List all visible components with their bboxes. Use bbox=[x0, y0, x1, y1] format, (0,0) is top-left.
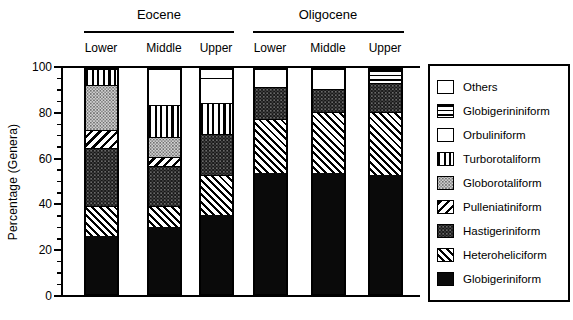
y-major-tick bbox=[54, 249, 62, 251]
segment-globigeriniform bbox=[255, 173, 286, 295]
column-label: Lower bbox=[71, 41, 131, 55]
bar-eocene-lower bbox=[84, 67, 119, 296]
y-tick-label: 40 bbox=[24, 197, 52, 211]
segment-heteroheliciform bbox=[255, 119, 286, 173]
segment-others bbox=[313, 69, 344, 89]
legend: OthersGlobigerininiformOrbuliniformTurbo… bbox=[428, 64, 570, 302]
segment-globigeriniform bbox=[149, 227, 180, 295]
segment-turborotaliform bbox=[86, 69, 117, 85]
bar-oligocene-middle bbox=[311, 67, 346, 296]
legend-item-globigerininiform: Globigerininiform bbox=[437, 104, 568, 118]
column-label: Middle bbox=[134, 41, 194, 55]
y-major-tick bbox=[54, 203, 62, 205]
y-axis-title: Percentage (Genera) bbox=[6, 62, 22, 302]
segment-heteroheliciform bbox=[86, 206, 117, 235]
y-minor-tick bbox=[57, 89, 62, 91]
segment-others bbox=[201, 69, 232, 78]
y-minor-tick bbox=[57, 284, 62, 286]
y-minor-tick bbox=[57, 215, 62, 217]
bar-oligocene-upper bbox=[368, 67, 403, 296]
legend-item-orbuliniform: Orbuliniform bbox=[437, 128, 568, 142]
segment-globigeriniform bbox=[313, 173, 344, 295]
column-label: Upper bbox=[355, 41, 415, 55]
legend-item-globigeriniform: Globigeriniform bbox=[437, 272, 568, 286]
legend-label: Orbuliniform bbox=[463, 129, 526, 141]
segment-hastigeriniform bbox=[255, 87, 286, 119]
legend-label: Turborotaliform bbox=[463, 153, 541, 165]
y-major-tick bbox=[54, 158, 62, 160]
segment-others bbox=[255, 69, 286, 87]
column-label: Lower bbox=[240, 41, 300, 55]
y-minor-tick bbox=[57, 124, 62, 126]
y-tick-label: 60 bbox=[24, 152, 52, 166]
y-tick-label: 0 bbox=[24, 289, 52, 303]
legend-swatch-orbuliniform bbox=[437, 128, 454, 142]
y-minor-tick bbox=[57, 146, 62, 148]
legend-item-globorotaliform: Globorotaliform bbox=[437, 176, 568, 190]
segment-pulleniatiniform bbox=[86, 130, 117, 148]
legend-item-turborotaliform: Turborotaliform bbox=[437, 152, 568, 166]
legend-swatch-globorotaliform bbox=[437, 176, 454, 190]
legend-label: Hastigeriniform bbox=[463, 225, 540, 237]
bar-eocene-middle bbox=[147, 67, 182, 296]
legend-label: Others bbox=[463, 81, 498, 93]
legend-label: Globigerininiform bbox=[463, 105, 550, 117]
y-minor-tick bbox=[57, 169, 62, 171]
legend-label: Heteroheliciform bbox=[463, 249, 547, 261]
y-minor-tick bbox=[57, 181, 62, 183]
segment-turborotaliform bbox=[201, 103, 232, 135]
legend-item-others: Others bbox=[437, 80, 568, 94]
segment-heteroheliciform bbox=[149, 206, 180, 226]
stacked-bar-figure: Percentage (Genera) Eocene Oligocene Low… bbox=[0, 0, 573, 320]
y-minor-tick bbox=[57, 238, 62, 240]
legend-item-hastigeriniform: Hastigeriniform bbox=[437, 224, 568, 238]
segment-turborotaliform bbox=[149, 105, 180, 137]
legend-swatch-globigerininiform bbox=[437, 104, 454, 118]
legend-item-heteroheliciform: Heteroheliciform bbox=[437, 248, 568, 262]
segment-globigerininiform bbox=[370, 69, 401, 83]
segment-heteroheliciform bbox=[370, 112, 401, 175]
y-major-tick bbox=[54, 295, 62, 297]
segment-hastigeriniform bbox=[370, 83, 401, 112]
column-label: Upper bbox=[186, 41, 246, 55]
y-minor-tick bbox=[57, 101, 62, 103]
bar-oligocene-lower bbox=[253, 67, 288, 296]
segment-globorotaliform bbox=[86, 85, 117, 130]
column-label: Middle bbox=[298, 41, 358, 55]
legend-swatch-pulleniatiniform bbox=[437, 200, 454, 214]
y-tick-label: 80 bbox=[24, 106, 52, 120]
y-tick-label: 100 bbox=[24, 60, 52, 74]
legend-swatch-others bbox=[437, 80, 454, 94]
segment-hastigeriniform bbox=[149, 166, 180, 207]
y-minor-tick bbox=[57, 227, 62, 229]
segment-heteroheliciform bbox=[201, 175, 232, 216]
segment-globorotaliform bbox=[149, 137, 180, 157]
segment-hastigeriniform bbox=[201, 134, 232, 175]
y-major-tick bbox=[54, 112, 62, 114]
bar-eocene-upper bbox=[199, 67, 234, 296]
y-major-tick bbox=[54, 66, 62, 68]
y-tick-label: 20 bbox=[24, 243, 52, 257]
legend-swatch-turborotaliform bbox=[437, 152, 454, 166]
segment-globigeriniform bbox=[201, 215, 232, 294]
legend-swatch-hastigeriniform bbox=[437, 224, 454, 238]
legend-label: Pulleniatiniform bbox=[463, 201, 542, 213]
segment-globigeriniform bbox=[370, 175, 401, 294]
y-minor-tick bbox=[57, 272, 62, 274]
epoch-underline-oligocene bbox=[253, 31, 404, 33]
epoch-header-oligocene: Oligocene bbox=[268, 7, 388, 22]
legend-label: Globorotaliform bbox=[463, 177, 542, 189]
legend-swatch-globigeriniform bbox=[437, 272, 454, 286]
segment-orbuliniform bbox=[149, 69, 180, 105]
y-minor-tick bbox=[57, 135, 62, 137]
y-minor-tick bbox=[57, 192, 62, 194]
segment-globigeriniform bbox=[86, 236, 117, 295]
epoch-header-eocene: Eocene bbox=[99, 7, 219, 22]
y-minor-tick bbox=[57, 261, 62, 263]
y-minor-tick bbox=[57, 78, 62, 80]
legend-swatch-heteroheliciform bbox=[437, 248, 454, 262]
segment-hastigeriniform bbox=[86, 148, 117, 207]
segment-pulleniatiniform bbox=[149, 157, 180, 166]
epoch-underline-eocene bbox=[84, 31, 234, 33]
segment-hastigeriniform bbox=[313, 89, 344, 112]
